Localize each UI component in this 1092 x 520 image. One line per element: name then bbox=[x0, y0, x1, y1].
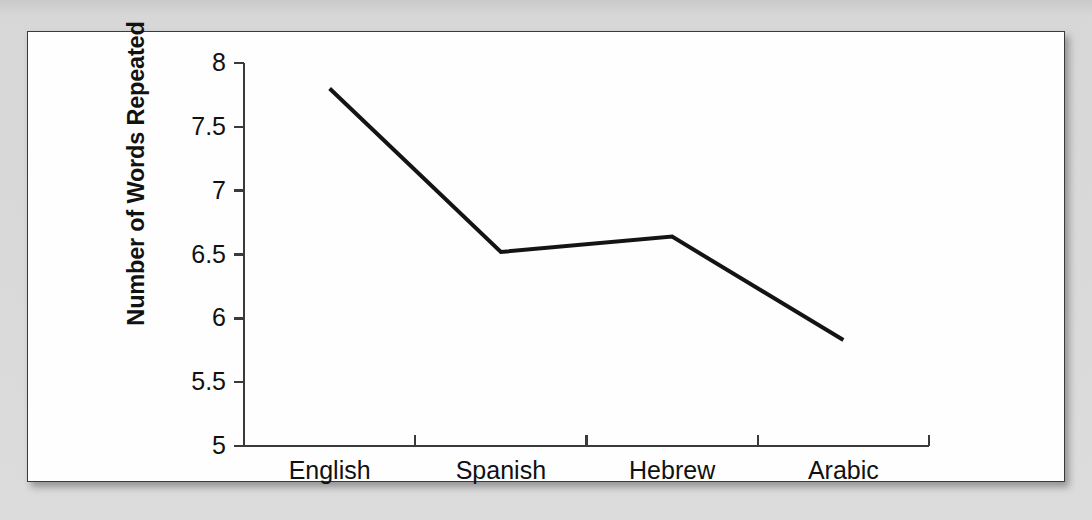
y-axis-tick-label: 7 bbox=[164, 178, 226, 203]
y-axis-tick-label: 5 bbox=[164, 433, 226, 458]
x-axis-tick-label: Arabic bbox=[758, 458, 929, 483]
y-axis-tick-label: 6 bbox=[164, 305, 226, 330]
chart-axes bbox=[234, 63, 929, 446]
y-axis-tick-label: 7.5 bbox=[164, 114, 226, 139]
y-axis-tick-label: 6.5 bbox=[164, 242, 226, 267]
figure-panel: Number of Words Repeated 55.566.577.58 E… bbox=[27, 31, 1065, 482]
x-axis-tick-label: English bbox=[244, 458, 415, 483]
data-line-number-of-words-repeated bbox=[330, 89, 844, 341]
x-axis-tick-label: Hebrew bbox=[587, 458, 758, 483]
y-axis-tick-label: 5.5 bbox=[164, 369, 226, 394]
chart-series bbox=[330, 89, 844, 341]
x-axis-tick-label: Spanish bbox=[415, 458, 586, 483]
chart-plot-area: Number of Words Repeated 55.566.577.58 E… bbox=[28, 32, 1066, 483]
y-axis-tick-label: 8 bbox=[164, 50, 226, 75]
